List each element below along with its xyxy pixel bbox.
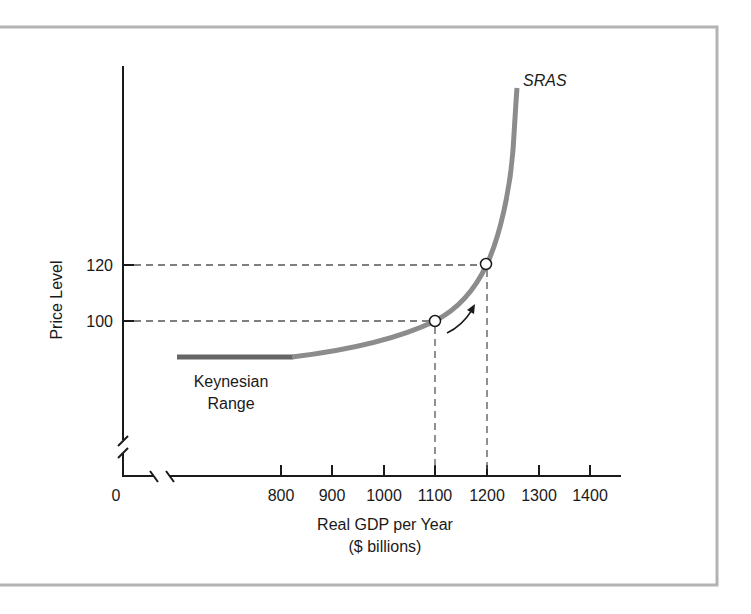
sras-chart: SRAS Keynesian Range 120 100 Price Level… (0, 0, 751, 614)
x-axis (150, 465, 621, 482)
chart-frame (0, 27, 717, 585)
sras-label: SRAS (523, 72, 567, 89)
x-tick-label-1100: 1100 (418, 487, 453, 504)
x-tick-label-1400: 1400 (572, 487, 608, 504)
point-1100-100 (430, 316, 441, 327)
x-tick-label-800: 800 (268, 487, 295, 504)
origin-label: 0 (112, 487, 121, 504)
y-tick-label-120: 120 (86, 257, 113, 274)
keynesian-label-line2: Range (207, 395, 254, 412)
x-tick-label-900: 900 (319, 487, 346, 504)
sras-curve (292, 88, 517, 357)
y-tick-label-100: 100 (86, 313, 113, 330)
x-axis-label: Real GDP per Year (317, 516, 453, 533)
x-tick-label-1000: 1000 (366, 487, 402, 504)
keynesian-label-line1: Keynesian (194, 373, 269, 390)
x-tick-label-1300: 1300 (521, 487, 557, 504)
point-1200-120 (481, 259, 492, 270)
x-tick-label-1200: 1200 (469, 487, 505, 504)
x-axis-sublabel: ($ billions) (349, 538, 422, 555)
y-axis-label: Price Level (48, 260, 65, 339)
guide-lines (134, 265, 487, 470)
y-axis (118, 66, 153, 476)
